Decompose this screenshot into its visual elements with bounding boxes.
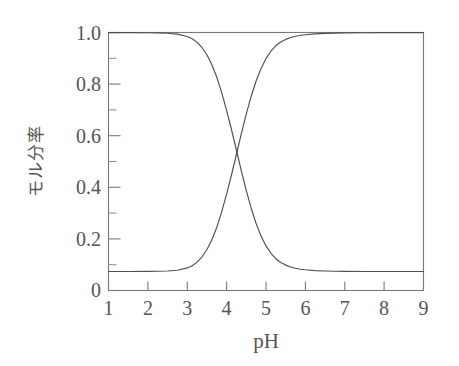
curve-protonated-acid bbox=[109, 33, 424, 272]
y-tick-label-0: 0 bbox=[91, 279, 101, 301]
speciation-chart: 0 0.2 0.4 0.6 0.8 1.0 1 2 3 4 5 6 7 8 9 … bbox=[0, 0, 459, 366]
y-tick-label-0-8: 0.8 bbox=[76, 73, 101, 95]
x-axis-title: pH bbox=[253, 329, 279, 353]
y-tick-label-1-0: 1.0 bbox=[76, 22, 101, 44]
x-axis-major-ticks bbox=[109, 282, 424, 291]
x-tick-label-1: 1 bbox=[104, 297, 114, 319]
x-tick-label-9: 9 bbox=[419, 297, 429, 319]
x-tick-label-7: 7 bbox=[340, 297, 350, 319]
plot-frame bbox=[109, 33, 424, 291]
y-axis-minor-ticks bbox=[109, 58, 117, 264]
y-tick-label-0-4: 0.4 bbox=[76, 176, 101, 198]
x-tick-label-4: 4 bbox=[222, 297, 232, 319]
x-tick-label-6: 6 bbox=[300, 297, 310, 319]
x-tick-label-5: 5 bbox=[261, 297, 271, 319]
y-axis-title: モル分率 bbox=[26, 125, 46, 197]
x-tick-label-3: 3 bbox=[182, 297, 192, 319]
chart-figure: 0 0.2 0.4 0.6 0.8 1.0 1 2 3 4 5 6 7 8 9 … bbox=[0, 0, 459, 366]
curve-deprotonated-base bbox=[109, 33, 424, 272]
x-tick-label-2: 2 bbox=[143, 297, 153, 319]
y-tick-label-0-2: 0.2 bbox=[76, 228, 101, 250]
y-tick-label-0-6: 0.6 bbox=[76, 125, 101, 147]
x-tick-label-8: 8 bbox=[379, 297, 389, 319]
